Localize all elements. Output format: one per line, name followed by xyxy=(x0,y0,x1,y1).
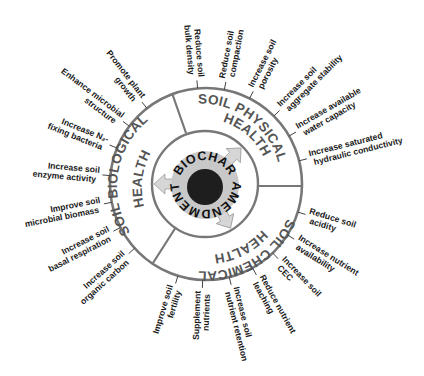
benefit-tick xyxy=(298,212,306,214)
benefit-tick xyxy=(224,82,226,90)
benefit-tick xyxy=(142,102,147,108)
benefit-label: Supplementnutrients xyxy=(191,290,212,340)
benefit-tick xyxy=(274,110,280,116)
benefit-tick xyxy=(197,80,198,88)
biochar-core-icon xyxy=(187,169,223,205)
benefit-label: Reduce soilacidity xyxy=(305,206,357,239)
benefit-label: Increase soilnutrient retention xyxy=(222,285,259,362)
benefit-label: Improve soilmicrobial biomass xyxy=(22,195,103,229)
benefit-label: Increase soilporosity xyxy=(246,38,287,93)
benefit-label: Increase soilenzyme activity xyxy=(32,159,100,184)
benefit-tick xyxy=(299,159,307,161)
benefit-label: Increase N₂-fixing bacteria xyxy=(46,112,110,153)
benefit-tick xyxy=(129,248,135,253)
benefit-tick xyxy=(102,175,110,176)
benefit-label: Improve soilfertility xyxy=(151,283,184,337)
benefit-tick xyxy=(289,132,296,136)
benefit-tick xyxy=(176,276,178,284)
benefit-label: Reduce soilbulk density xyxy=(182,24,206,79)
benefit-label: Reduce nutrientleaching xyxy=(249,273,298,340)
benefit-label: Increase saturatedhydraulic conductivity xyxy=(307,126,403,168)
biochar-diagram: BIOCHAR AMENDMENT SOIL PHYSICAL HEALTH S… xyxy=(0,0,424,376)
benefit-label: Reduce soilcompaction xyxy=(217,27,246,81)
benefit-tick xyxy=(250,91,254,98)
